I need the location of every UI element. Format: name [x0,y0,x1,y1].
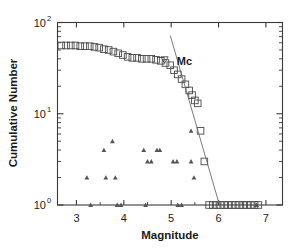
marker-open-square [171,67,178,74]
y-tick-label: 102 [34,14,51,29]
x-tick-label: 5 [168,212,174,224]
y-tick-mantissa: 10 [34,108,46,120]
marker-open-square [82,43,89,50]
marker-open-square [143,56,150,63]
marker-open-square [110,48,117,55]
y-tick-label: 100 [34,196,51,211]
marker-open-square [120,52,127,59]
marker-filled-triangle [189,128,194,132]
annotation-layer: Mc [177,55,192,67]
y-tick-exponent: 1 [47,105,51,114]
y-axis-title: Cumulative Number [7,58,19,167]
marker-filled-triangle [149,159,154,163]
y-tick-exponent: 0 [47,196,51,205]
x-tick-label: 4 [121,212,127,224]
data-series [84,128,258,207]
data-series-layer [58,42,262,208]
x-tick-label: 6 [215,212,221,224]
marker-filled-triangle [84,175,89,179]
marker-filled-triangle [145,159,150,163]
marker-filled-triangle [189,159,194,163]
marker-open-square [63,42,70,49]
y-tick-labels: 100101102 [34,14,51,212]
frequency-magnitude-plot: 34567 100101102 Mc Magnitude Cumulative … [0,0,302,250]
chart-figure: 34567 100101102 Mc Magnitude Cumulative … [0,0,302,250]
y-tick-mantissa: 10 [34,199,46,211]
marker-filled-triangle [171,159,176,163]
y-tick-exponent: 2 [47,14,51,23]
marker-filled-triangle [102,148,107,152]
x-tick-label: 3 [73,212,79,224]
marker-filled-triangle [192,175,197,179]
y-tick-mantissa: 10 [34,17,46,29]
marker-filled-triangle [110,139,115,143]
y-tick-label: 101 [34,105,51,120]
x-axis-title: Magnitude [141,229,199,241]
marker-filled-triangle [103,175,108,179]
x-tick-labels: 34567 [73,212,269,224]
marker-open-square [175,71,182,78]
marker-open-square [115,50,122,57]
marker-open-square [167,62,174,69]
marker-filled-triangle [174,159,179,163]
mc-annotation-label: Mc [177,55,192,67]
marker-filled-triangle [113,175,118,179]
x-tick-label: 7 [263,212,269,224]
data-series [58,42,262,208]
marker-open-square [67,42,74,49]
marker-filled-triangle [141,148,146,152]
